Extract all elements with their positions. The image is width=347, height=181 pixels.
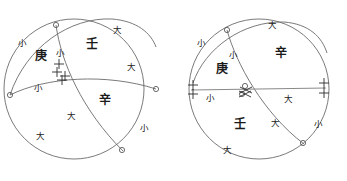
diagram-stage: 壬 庚 辛 大 大 小 小 小 大 大 小 xyxy=(0,0,347,181)
left-mark-xiao-2: 小 xyxy=(56,48,65,58)
left-mark-da-3: 大 xyxy=(67,111,76,121)
right-mark-xiao-3: 小 xyxy=(206,93,215,103)
right-equator-line xyxy=(191,88,326,90)
right-circle-diagram: 辛 庚 壬 大 小 小 小 大 大 小 大 xyxy=(188,19,329,159)
right-node-center-upper xyxy=(242,83,247,88)
right-mark-da-4: 大 xyxy=(223,145,232,155)
left-mark-da-2: 大 xyxy=(127,62,136,72)
left-mark-da-4: 大 xyxy=(36,131,45,141)
left-mark-xiao-4: 小 xyxy=(140,123,149,133)
left-mark-xiao-3: 小 xyxy=(34,83,43,93)
left-label-geng: 庚 xyxy=(35,48,47,63)
right-label-ren: 壬 xyxy=(234,116,246,131)
left-mark-da-1: 大 xyxy=(113,25,122,35)
right-mark-xiao-1: 小 xyxy=(197,38,206,48)
right-mark-xiao-4: 小 xyxy=(314,119,323,129)
right-arc-upper xyxy=(193,22,327,83)
left-label-ren: 壬 xyxy=(86,36,98,51)
right-mark-da-2: 大 xyxy=(284,94,293,104)
left-arc-equator xyxy=(10,79,156,95)
right-mark-xiao-2: 小 xyxy=(229,50,238,60)
right-mark-da-1: 大 xyxy=(268,20,277,30)
left-mark-xiao-1: 小 xyxy=(18,38,27,48)
right-mark-da-3: 大 xyxy=(271,118,280,128)
diagram-canvas: 壬 庚 辛 大 大 小 小 小 大 大 小 xyxy=(0,0,347,181)
left-label-xin: 辛 xyxy=(99,92,111,107)
right-label-xin: 辛 xyxy=(275,45,287,60)
right-label-geng: 庚 xyxy=(216,61,228,76)
left-circle-diagram: 壬 庚 辛 大 大 小 小 小 大 大 小 xyxy=(4,19,159,159)
